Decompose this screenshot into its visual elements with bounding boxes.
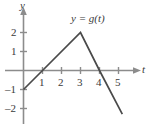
curve-label: y = g(t) (71, 13, 105, 24)
curve-g (24, 33, 123, 115)
y-tick-label-2: 2 (11, 27, 17, 38)
graph-figure: y t y = g(t) 2 1 –1 –2 1 2 3 4 5 (0, 0, 149, 128)
x-tick-label-4: 4 (96, 77, 102, 88)
y-tick-label-1: 1 (11, 46, 17, 57)
x-tick-label-5: 5 (115, 77, 121, 88)
t-axis-label: t (142, 64, 145, 75)
x-tick-label-2: 2 (58, 77, 64, 88)
y-tick-label-neg2: –2 (5, 103, 16, 114)
x-axis-arrowhead (133, 67, 141, 74)
y-axis-label: y (20, 0, 25, 11)
y-tick-label-neg1: –1 (5, 84, 16, 95)
x-tick-label-3: 3 (77, 77, 83, 88)
x-tick-label-1: 1 (39, 77, 45, 88)
